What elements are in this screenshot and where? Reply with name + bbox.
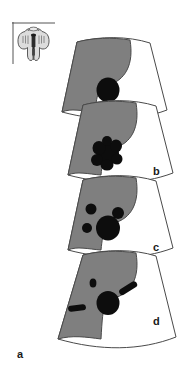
lesion bbox=[96, 216, 120, 241]
panel-label-c: c bbox=[153, 242, 159, 253]
lesion bbox=[97, 291, 120, 315]
ultrasound-sector-stack bbox=[0, 0, 195, 378]
panel-label-b: b bbox=[153, 166, 160, 177]
lesion bbox=[82, 223, 92, 233]
lesion bbox=[112, 207, 124, 219]
lesion bbox=[86, 204, 97, 215]
panel-label-a: a bbox=[17, 349, 23, 360]
lesion bbox=[97, 78, 120, 103]
sector-scan-4 bbox=[58, 251, 176, 348]
lesion bbox=[90, 278, 97, 287]
lesion-group-1 bbox=[97, 78, 120, 103]
panel-label-d: d bbox=[153, 316, 160, 327]
figure-root: a b c d bbox=[0, 0, 195, 378]
